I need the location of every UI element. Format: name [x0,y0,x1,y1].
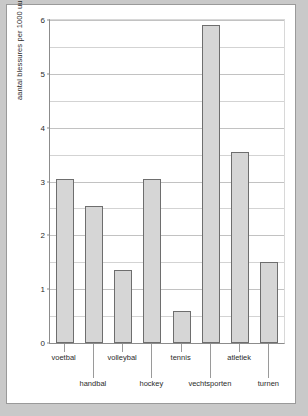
bar-turnen [260,262,278,343]
x-axis-tick-stem [122,344,123,352]
x-axis-label-tennis: tennis [171,353,191,362]
x-axis-label-hockey: hockey [139,379,163,388]
y-axis-tick-label: 1 [41,285,45,294]
gridline-major [50,128,284,129]
gridline-minor [50,47,284,48]
x-axis-label-voetbal: voetbal [52,353,76,362]
x-axis-label-atletiek: atletiek [227,353,251,362]
gridline-minor [50,101,284,102]
bar-handbal [85,206,103,343]
y-axis-tick-mark [47,181,50,182]
x-axis-tick-stem [181,344,182,352]
y-axis-tick-mark [47,235,50,236]
y-axis-tick-mark [47,20,50,21]
y-axis-tick-mark [47,73,50,74]
gridline-major [50,74,284,75]
x-axis-label-volleybal: volleybal [108,353,137,362]
bar-tennis [173,311,191,343]
y-axis-tick-label: 5 [41,69,45,78]
x-axis-tick-stem [151,344,152,378]
x-axis-tick-stem [239,344,240,352]
x-axis-labels: voetbalhandbalvolleybalhockeytennisvecht… [49,344,285,406]
x-axis-tick-stem [93,344,94,378]
y-axis-tick-label: 4 [41,123,45,132]
x-axis-label-vechtsporten: vechtsporten [188,379,231,388]
gridline-major [50,20,284,21]
y-axis-tick-label: 0 [41,339,45,348]
bar-hockey [143,179,161,343]
bar-volleybal [114,270,132,343]
x-axis-label-turnen: turnen [258,379,279,388]
y-axis-tick-mark [47,127,50,128]
bar-atletiek [231,152,249,343]
x-axis-tick-stem [210,344,211,378]
bar-voetbal [56,179,74,343]
y-axis-tick-label: 2 [41,231,45,240]
x-axis-tick-stem [64,344,65,352]
y-axis-tick-label: 6 [41,16,45,25]
y-axis-tick-mark [47,289,50,290]
y-axis-tick-label: 3 [41,177,45,186]
bar-vechtsporten [202,25,220,343]
plot-area: 0123456 [49,19,285,344]
x-axis-label-handbal: handbal [80,379,107,388]
x-axis-tick-stem [268,344,269,378]
y-axis-title: aantal blessures per 1000 uur sportbeoef… [15,0,25,100]
figure-frame: aantal blessures per 1000 uur sportbeoef… [6,4,296,404]
